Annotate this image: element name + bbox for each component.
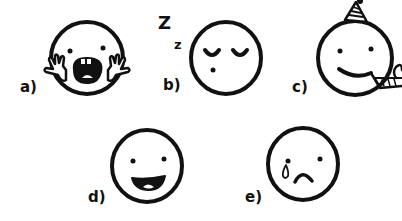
label-d: d) [88,190,106,205]
tear-drop-icon [283,165,288,178]
face-d-happy [112,130,182,202]
sleep-letter-small: z [174,38,182,51]
emotion-faces-illustration [0,0,402,221]
face-e-sad [268,128,338,200]
label-a: a) [20,80,37,95]
face-a-scared [45,22,130,94]
face-c-party [318,0,402,95]
face-b-sleepy [191,22,261,94]
label-c: c) [292,80,308,95]
label-b: b) [163,78,181,93]
sleep-letter-large: Z [158,14,171,32]
label-e: e) [245,190,262,205]
